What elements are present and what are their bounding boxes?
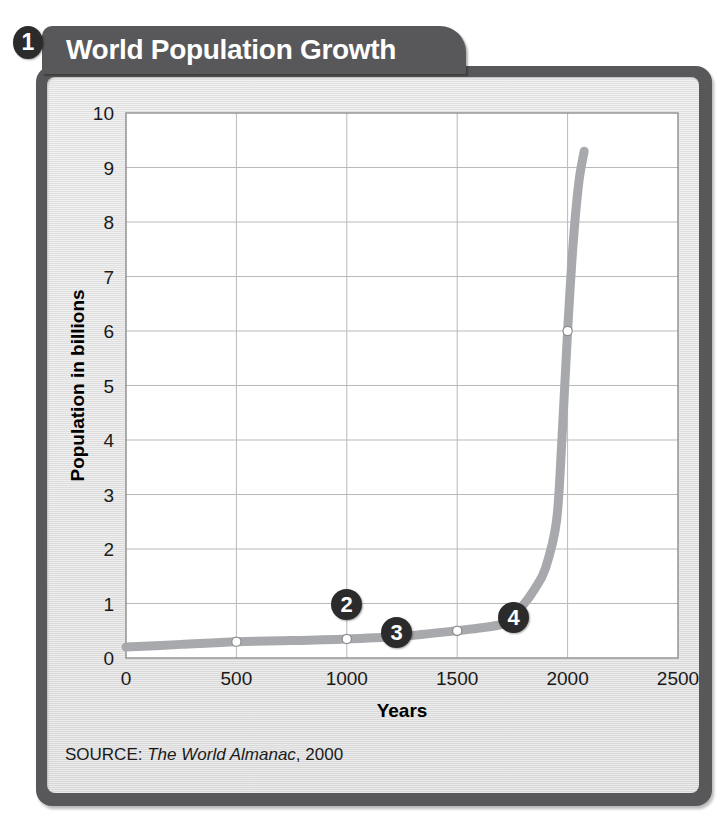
- source-prefix: SOURCE:: [65, 745, 142, 764]
- figure-title-tab: World Population Growth: [42, 26, 466, 74]
- figure-card-inner: [47, 77, 699, 793]
- callout-badge-4: 4: [498, 602, 529, 633]
- source-note: SOURCE: The World Almanac, 2000: [65, 745, 343, 765]
- source-comma: ,: [296, 745, 301, 764]
- figure-world-population-growth: World Population Growth 1 01234567891005…: [0, 0, 725, 837]
- page-title: World Population Growth: [66, 34, 396, 66]
- figure-card: [36, 66, 712, 806]
- source-publication: The World Almanac: [147, 745, 296, 764]
- callout-badge-2: 2: [331, 589, 362, 620]
- source-year: 2000: [305, 745, 343, 764]
- figure-number-badge: 1: [13, 26, 43, 59]
- callout-badge-3: 3: [381, 617, 412, 648]
